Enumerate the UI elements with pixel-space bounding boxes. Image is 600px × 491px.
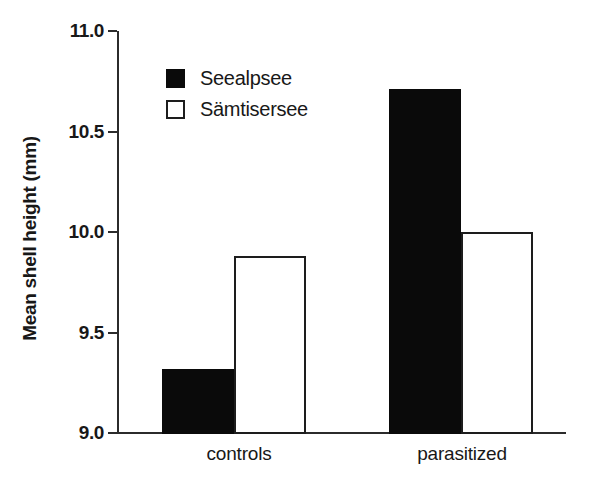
hollow-square-swatch-icon (166, 100, 185, 119)
x-axis-label-parasitized: parasitized (417, 443, 507, 465)
y-tick-label: 11.0 (44, 20, 104, 42)
filled-square-swatch-icon (166, 69, 185, 88)
bar-parasitized-saemtisersee[interactable] (461, 232, 533, 434)
y-tick-label: 10.5 (44, 121, 104, 143)
y-axis-spine (117, 31, 119, 434)
y-tick-label: 10.0 (44, 221, 104, 243)
legend-item-saemtisersee[interactable]: Sämtisersee (166, 94, 308, 125)
bar-controls-saemtisersee[interactable] (234, 256, 306, 434)
bar-parasitized-seealpsee[interactable] (389, 89, 461, 434)
y-axis-title-label: Mean shell height (mm) (19, 136, 41, 341)
y-tick-label: 9.0 (44, 422, 104, 444)
legend-label: Sämtisersee (200, 98, 308, 121)
y-tick-mark (108, 30, 117, 32)
y-axis-title: Mean shell height (mm) (0, 0, 60, 491)
legend-label: Seealpsee (200, 67, 292, 90)
y-tick-label: 9.5 (44, 322, 104, 344)
y-tick-mark (108, 432, 117, 434)
y-tick-mark (108, 131, 117, 133)
legend-item-seealpsee[interactable]: Seealpsee (166, 63, 308, 94)
bar-controls-seealpsee[interactable] (162, 369, 234, 434)
bar-chart: Mean shell height (mm) 9.09.510.010.511.… (0, 0, 600, 491)
y-tick-mark (108, 231, 117, 233)
y-tick-mark (108, 332, 117, 334)
legend: Seealpsee Sämtisersee (166, 63, 308, 125)
x-axis-label-controls: controls (207, 443, 272, 465)
